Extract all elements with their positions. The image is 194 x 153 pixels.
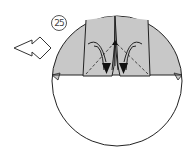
- view-direction-arrow-icon: [14, 37, 51, 59]
- origami-diagram: [0, 0, 194, 153]
